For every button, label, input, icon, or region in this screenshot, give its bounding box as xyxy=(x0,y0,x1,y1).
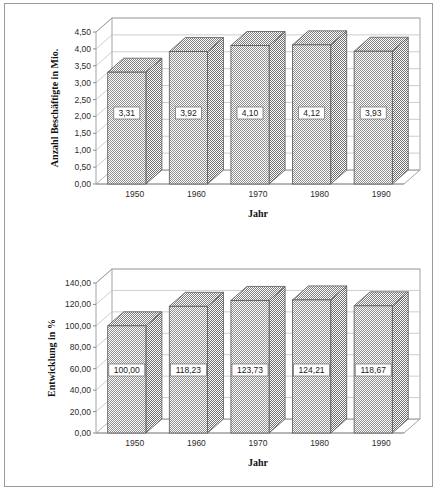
y-axis-tick-label: 1,50 xyxy=(74,128,91,138)
chart-employees-canvas: 0,000,501,001,502,002,503,003,504,004,50… xyxy=(0,0,438,245)
y-axis-tick-label: 4,00 xyxy=(74,44,91,54)
bar-value-label: 100,00 xyxy=(109,364,145,376)
y-axis-tick-label: 3,50 xyxy=(74,61,91,71)
bar-1980 xyxy=(293,286,347,433)
y-axis-title: Entwicklung in % xyxy=(46,319,57,397)
svg-text:124,21: 124,21 xyxy=(299,365,325,375)
x-axis-category-label: 1970 xyxy=(249,189,268,199)
svg-text:118,67: 118,67 xyxy=(361,365,387,375)
page-root: 0,000,501,001,502,002,503,003,504,004,50… xyxy=(0,0,438,491)
svg-text:3,31: 3,31 xyxy=(119,108,136,118)
y-axis-tick-label: 0,00 xyxy=(74,179,91,189)
x-axis-category-label: 1990 xyxy=(372,189,391,199)
bar-value-label: 4,10 xyxy=(237,107,263,119)
x-axis-title: Jahr xyxy=(248,457,269,468)
y-axis-tick-label: 40,00 xyxy=(70,385,92,395)
bar-1960 xyxy=(169,292,223,433)
y-axis-tick-label: 2,00 xyxy=(74,111,91,121)
y-axis-tick-label: 140,00 xyxy=(65,278,91,288)
bar-1950 xyxy=(108,58,162,184)
bar-1990 xyxy=(354,292,408,433)
x-axis-title: Jahr xyxy=(248,208,269,219)
x-axis-category-label: 1990 xyxy=(372,438,391,448)
bar-value-label: 123,73 xyxy=(232,364,268,376)
svg-text:4,12: 4,12 xyxy=(303,108,320,118)
bar-value-label: 3,92 xyxy=(175,107,201,119)
y-axis-tick-label: 60,00 xyxy=(70,364,92,374)
bar-value-label: 124,21 xyxy=(294,364,330,376)
y-axis-tick-label: 20,00 xyxy=(70,407,92,417)
y-axis-tick-label: 120,00 xyxy=(65,299,91,309)
x-axis-category-label: 1980 xyxy=(310,189,329,199)
svg-text:3,92: 3,92 xyxy=(180,108,197,118)
bar-value-label: 118,67 xyxy=(355,364,391,376)
svg-text:4,10: 4,10 xyxy=(242,108,259,118)
chart-development: 0,0020,0040,0060,0080,00100,00120,00140,… xyxy=(0,245,438,491)
y-axis-tick-label: 4,50 xyxy=(74,27,91,37)
svg-text:118,23: 118,23 xyxy=(176,365,202,375)
chart-development-canvas: 0,0020,0040,0060,0080,00100,00120,00140,… xyxy=(0,245,438,491)
y-axis-tick-label: 1,00 xyxy=(74,145,91,155)
y-axis-tick-label: 80,00 xyxy=(70,342,92,352)
y-axis-title: Anzahl Beschäftigte in Mio. xyxy=(49,48,60,167)
x-axis-category-label: 1970 xyxy=(249,438,268,448)
bar-value-label: 118,23 xyxy=(170,364,206,376)
x-axis-category-label: 1950 xyxy=(125,438,144,448)
bar-1970 xyxy=(231,286,285,433)
svg-text:100,00: 100,00 xyxy=(114,365,140,375)
bar-value-label: 4,12 xyxy=(299,107,325,119)
x-axis-category-label: 1980 xyxy=(310,438,329,448)
y-axis-tick-label: 100,00 xyxy=(65,321,91,331)
svg-text:123,73: 123,73 xyxy=(237,365,263,375)
y-axis-tick-label: 2,50 xyxy=(74,95,91,105)
y-axis-tick-label: 0,00 xyxy=(74,428,91,438)
y-axis-tick-label: 3,00 xyxy=(74,78,91,88)
x-axis-category-label: 1960 xyxy=(187,189,206,199)
bar-value-label: 3,93 xyxy=(360,107,386,119)
bar-value-label: 3,31 xyxy=(114,107,140,119)
x-axis-category-label: 1960 xyxy=(187,438,206,448)
svg-text:3,93: 3,93 xyxy=(365,108,382,118)
y-axis-tick-label: 0,50 xyxy=(74,162,91,172)
x-axis-category-label: 1950 xyxy=(125,189,144,199)
chart-employees: 0,000,501,001,502,002,503,003,504,004,50… xyxy=(0,0,438,245)
